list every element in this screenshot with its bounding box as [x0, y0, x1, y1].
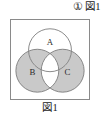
venn-label-c: C: [65, 67, 71, 77]
circled-number-icon: ①: [73, 1, 83, 12]
figure-frame: A B C: [10, 19, 90, 100]
figure-reference-label: 図1: [85, 2, 101, 13]
question-number-label: ① 図1: [73, 1, 101, 13]
venn-label-b: B: [30, 67, 36, 77]
figure-caption: 図1: [10, 102, 90, 114]
venn-label-a: A: [47, 37, 54, 47]
venn-diagram: A B C: [11, 20, 89, 99]
